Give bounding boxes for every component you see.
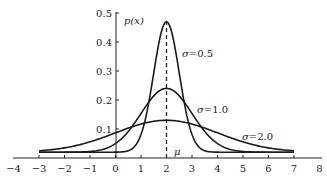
y-tick-label: 0.2 [96, 95, 112, 106]
y-axis-label: p(x) [124, 15, 144, 26]
x-tick-label: 3 [189, 163, 195, 174]
normal-distribution-chart: −4−3−2−1012345678 0.10.20.30.40.5 p(x) μ… [0, 0, 327, 189]
mean-label: μ [174, 146, 181, 157]
x-tick-label: 7 [291, 163, 297, 174]
label-sigma-0-5: σ=0.5 [182, 48, 213, 59]
y-tick-label: 0.5 [96, 8, 112, 19]
label-sigma-1-0: σ=1.0 [197, 104, 228, 115]
x-tick-label: 1 [138, 163, 144, 174]
x-tick-label: −4 [6, 163, 21, 174]
x-tick-label: 0 [112, 163, 118, 174]
x-axis: −4−3−2−1012345678 [6, 155, 323, 174]
y-tick-label: 0.4 [96, 37, 112, 48]
y-tick-label: 0.1 [96, 124, 112, 135]
x-tick-label: 8 [316, 163, 322, 174]
x-tick-label: 2 [163, 163, 169, 174]
x-tick-label: −2 [57, 163, 72, 174]
label-sigma-2-0: σ=2.0 [242, 131, 273, 142]
x-tick-label: 5 [240, 163, 246, 174]
y-tick-label: 0.3 [96, 66, 112, 77]
x-tick-label: 6 [265, 163, 271, 174]
x-tick-label: −3 [32, 163, 47, 174]
x-tick-label: 4 [214, 163, 220, 174]
x-tick-label: −1 [83, 163, 98, 174]
